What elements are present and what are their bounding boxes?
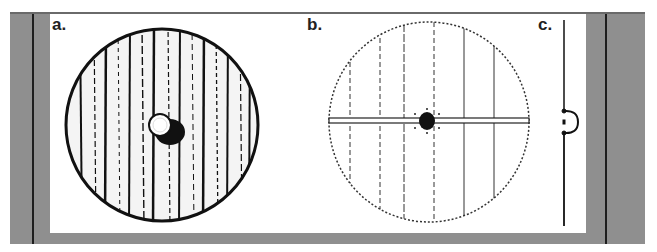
shield-front-drawing bbox=[66, 24, 258, 229]
figure-panel: a. b. c. bbox=[50, 14, 586, 233]
shield-profile-drawing bbox=[562, 20, 578, 226]
frame-divider-left bbox=[32, 12, 34, 244]
shield-drawings bbox=[50, 14, 586, 233]
shield-construction-drawing bbox=[329, 14, 529, 233]
frame-divider-right bbox=[605, 12, 607, 244]
